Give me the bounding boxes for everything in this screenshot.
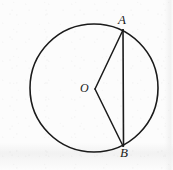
circle-outline bbox=[30, 24, 158, 152]
point-label-b: B bbox=[120, 146, 128, 159]
radius-ob-line bbox=[95, 89, 123, 146]
point-label-a: A bbox=[118, 13, 126, 26]
radius-oa-line bbox=[95, 30, 123, 89]
chord-ab-line bbox=[123, 30, 124, 146]
vertex-point-a bbox=[122, 29, 124, 31]
center-label-o: O bbox=[80, 82, 89, 94]
circle-geometry-figure: A B O bbox=[0, 0, 173, 170]
